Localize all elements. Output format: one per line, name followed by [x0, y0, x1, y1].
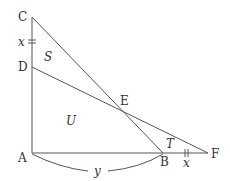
measure-bf: x — [183, 156, 190, 170]
segment-cb — [32, 17, 163, 153]
measure-ab: y — [93, 164, 101, 178]
region-s: S — [44, 50, 52, 64]
label-c: C — [18, 10, 27, 24]
label-d: D — [18, 60, 28, 74]
label-e: E — [120, 94, 129, 108]
label-b: B — [160, 155, 169, 169]
segment-df — [32, 67, 208, 153]
measure-cd: x — [18, 35, 25, 49]
label-f: F — [211, 147, 219, 161]
brace-ab-right — [108, 154, 163, 171]
geometry-diagram: C D A E B F S U T x x y — [0, 0, 230, 181]
brace-ab-left — [32, 154, 88, 171]
label-a: A — [17, 151, 27, 165]
region-u: U — [66, 114, 77, 128]
region-t: T — [166, 137, 175, 151]
